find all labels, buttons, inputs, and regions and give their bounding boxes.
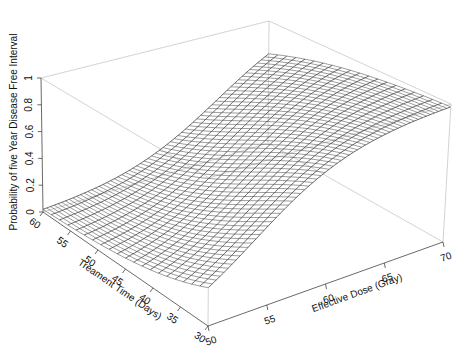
time-tick-label: 35 <box>165 310 181 326</box>
time-tick <box>205 326 208 330</box>
mesh-line-time <box>93 63 324 240</box>
time-tick <box>95 250 98 254</box>
dose-tick <box>326 284 327 289</box>
z-tick-label: 0.2 <box>25 178 36 192</box>
box-back-vertical-edge <box>268 21 269 143</box>
time-tick-label: 55 <box>55 234 71 250</box>
dose-tick <box>208 326 209 331</box>
mesh-line-time <box>159 85 397 273</box>
time-tick <box>150 288 153 292</box>
box-right-vertical-edge <box>443 104 451 242</box>
probability-surface-mesh <box>43 54 451 288</box>
z-tick-label: 0.8 <box>23 97 34 111</box>
time-tick <box>123 269 126 273</box>
z-tick-label: 1 <box>23 75 34 81</box>
box-top-front-edges <box>41 78 451 178</box>
mesh-line-time <box>175 92 414 279</box>
mesh-line-dose <box>51 207 217 281</box>
surface-plot: 00.20.40.60.81303540455055605055606570 P… <box>0 0 462 355</box>
dose-axis-title: Effective Dose (Gray) <box>310 271 403 314</box>
time-tick <box>40 212 43 216</box>
time-axis-title: Treament Time (Days) <box>76 257 164 322</box>
time-tick <box>68 231 71 235</box>
dose-tick <box>443 242 444 247</box>
mesh-line-time <box>43 54 269 210</box>
z-tick-label: 0 <box>25 209 36 215</box>
z-tick-label: 0.4 <box>24 151 35 165</box>
dose-tick-label: 70 <box>439 250 453 264</box>
box-top-back-edges <box>41 21 451 104</box>
mesh-line-time <box>60 56 287 220</box>
z-tick-label: 0.6 <box>24 124 35 138</box>
time-tick-label: 60 <box>27 215 43 231</box>
dose-tick <box>384 263 385 268</box>
time-tick <box>178 307 181 311</box>
z-axis-title: Probability of five Year Disease Free In… <box>8 34 19 231</box>
dose-tick <box>267 305 268 310</box>
z-axis-line <box>41 78 43 212</box>
dose-tick-label: 55 <box>263 313 277 327</box>
dose-tick-label: 50 <box>204 334 218 348</box>
mesh-line-dose <box>122 175 293 202</box>
mesh-line-dose <box>250 70 431 115</box>
